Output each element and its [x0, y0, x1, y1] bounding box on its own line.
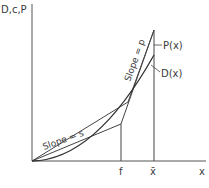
p-curve-label: P(x): [163, 40, 183, 51]
tick-label-xbar: x̄: [150, 166, 156, 177]
y-axis-label: D,c,P: [1, 4, 27, 15]
d-leader-line: [151, 65, 160, 72]
diagram-canvas: D,c,P x f x̄ P(x) D(x) Slope = s Slope =…: [0, 0, 209, 188]
tick-label-f: f: [119, 166, 123, 177]
x-axis-label: x: [199, 166, 205, 177]
d-curve-label: D(x): [161, 68, 183, 79]
